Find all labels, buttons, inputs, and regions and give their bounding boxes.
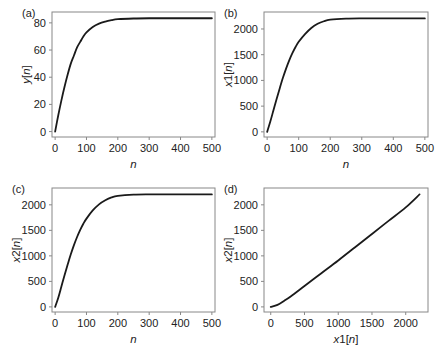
y-axis-label: x1[n] [222,62,234,88]
x-tick-label: 1500 [360,317,384,329]
y-tick-label: 20 [34,98,46,110]
y-tick-label: 500 [28,275,46,287]
y-tick-label: 1000 [234,74,258,86]
y-tick-label: 2000 [22,199,46,211]
panel-a: 0100200300400500020406080ny[n](a) [20,7,221,170]
data-line [55,18,212,131]
y-tick-label: 0 [252,126,258,138]
y-tick-label: 0 [40,126,46,138]
figure: 0100200300400500020406080ny[n](a)0100200… [0,0,435,355]
axes-frame [52,12,215,137]
panel-d: 05001000150020000500100015002000x1[n]x2[… [222,183,428,345]
y-tick-label: 1500 [22,224,46,236]
x-tick-label: 300 [140,317,158,329]
x-tick-label: 100 [77,317,95,329]
x-tick-label: 400 [171,142,189,154]
x-tick-label: 0 [52,317,58,329]
panel-label: (b) [224,7,237,19]
x-tick-label: 300 [140,142,158,154]
y-tick-label: 1500 [234,49,258,61]
x-tick-label: 500 [295,317,313,329]
x-tick-label: 500 [203,142,221,154]
axes-frame [264,188,428,312]
y-tick-label: 2000 [234,199,258,211]
data-line [271,194,420,307]
panel-label: (c) [12,183,25,195]
x-tick-label: 0 [52,142,58,154]
x-axis-label: n [130,333,136,345]
panel-label: (d) [224,183,237,195]
x-axis-label: x1[n] [333,333,359,345]
y-tick-label: 500 [240,275,258,287]
x-tick-label: 0 [264,142,270,154]
x-tick-label: 200 [321,142,339,154]
x-tick-label: 1000 [326,317,350,329]
y-tick-label: 500 [240,100,258,112]
x-tick-label: 2000 [393,317,417,329]
y-axis-label: y[n] [20,65,32,85]
y-axis-label: x2[n] [10,238,22,264]
y-tick-label: 40 [34,71,46,83]
panel-c: 01002003004005000500100015002000nx2[n](c… [10,183,221,345]
x-tick-label: 100 [290,142,308,154]
y-tick-label: 0 [40,301,46,313]
axes-frame [264,12,428,137]
x-tick-label: 200 [109,317,127,329]
y-tick-label: 2000 [234,23,258,35]
axes-frame [52,188,215,312]
x-tick-label: 300 [353,142,371,154]
x-axis-label: n [343,158,349,170]
y-tick-label: 0 [252,301,258,313]
x-axis-label: n [130,158,136,170]
y-tick-label: 1000 [234,250,258,262]
x-tick-label: 400 [171,317,189,329]
x-tick-label: 400 [384,142,402,154]
y-tick-label: 1500 [234,224,258,236]
y-tick-label: 1000 [22,250,46,262]
panel-b: 01002003004005000500100015002000nx1[n](b… [222,7,434,170]
data-line [55,194,212,307]
panel-label: (a) [22,7,35,19]
x-tick-label: 0 [268,317,274,329]
x-tick-label: 500 [203,317,221,329]
y-tick-label: 80 [34,17,46,29]
y-tick-label: 60 [34,44,46,56]
data-line [267,18,425,131]
y-axis-label: x2[n] [222,238,234,264]
x-tick-label: 500 [416,142,434,154]
x-tick-label: 200 [109,142,127,154]
x-tick-label: 100 [77,142,95,154]
